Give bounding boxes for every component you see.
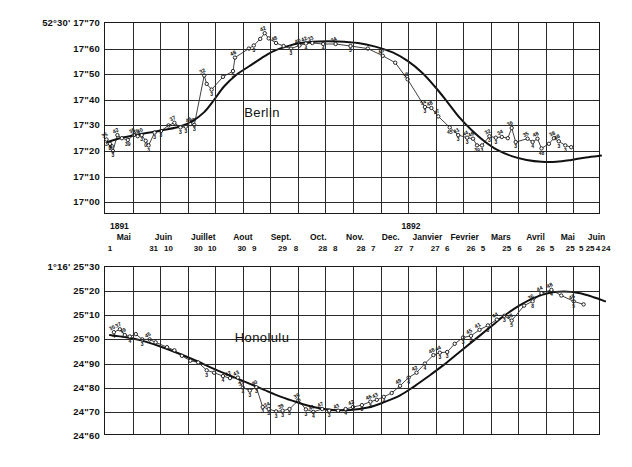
observation-point xyxy=(453,342,456,345)
observation-point xyxy=(375,398,378,401)
mean-curve xyxy=(110,292,605,411)
observation-point xyxy=(506,137,509,140)
observation-count: 8 xyxy=(531,303,534,309)
observation-point xyxy=(321,407,324,410)
observation-point xyxy=(536,137,539,140)
observation-point xyxy=(311,41,314,44)
observation-point xyxy=(398,384,401,387)
observation-point xyxy=(259,37,262,40)
x-axis-month-label: Aout xyxy=(233,232,252,242)
observation-count: 3 xyxy=(466,139,469,145)
figure-root: 52°30' 17"7017"6017"5017"4017"3017"2017"… xyxy=(0,0,632,467)
x-axis-month-label: Sept. xyxy=(271,232,292,242)
observation-point xyxy=(123,333,126,336)
x-axis-year-label: 1892 xyxy=(402,221,421,231)
gridline-vertical xyxy=(215,267,216,434)
y-axis-tick-label: 17"10 xyxy=(73,170,100,181)
x-axis-day-label: 25 xyxy=(586,244,595,253)
y-axis-tick-label: 17"20 xyxy=(73,145,100,156)
y-axis-tick-label: 17"50 xyxy=(73,68,100,79)
observation-point xyxy=(510,126,513,129)
x-axis-day-label: 6 xyxy=(517,244,521,253)
x-axis-month-label: Juin xyxy=(155,232,172,242)
x-axis-month-label: Dec. xyxy=(382,232,400,242)
observation-point xyxy=(236,376,239,379)
gridline-vertical xyxy=(133,23,134,213)
observation-count: 4 xyxy=(550,291,553,297)
x-axis-month-label: Fevrier xyxy=(450,232,478,242)
observation-point xyxy=(282,44,285,47)
gridline-vertical xyxy=(573,267,574,434)
y-axis-tick-label: 1°16' 25"30 xyxy=(48,261,100,272)
gridline-vertical xyxy=(133,267,134,434)
gridline-vertical xyxy=(325,267,326,434)
y-axis-tick-label: 17"40 xyxy=(73,93,100,104)
observation-point xyxy=(495,318,498,321)
observation-point xyxy=(500,135,503,138)
y-axis-tick-label: 17"30 xyxy=(73,119,100,130)
observation-point xyxy=(173,349,176,352)
gridline-vertical xyxy=(546,23,547,213)
x-axis-day-label: 4 xyxy=(596,244,600,253)
gridline-vertical xyxy=(491,23,492,213)
x-axis-day-label: 5 xyxy=(481,244,485,253)
station-label-berlin: Berlin xyxy=(244,105,280,120)
x-axis-day-label: 25 xyxy=(502,244,511,253)
x-axis-day-label: 8 xyxy=(294,244,298,253)
gridline-vertical xyxy=(353,23,354,213)
observation-point xyxy=(228,376,231,379)
observation-point xyxy=(205,82,208,85)
x-axis-day-label: 10 xyxy=(208,244,217,253)
y-axis-tick-label: 17"60 xyxy=(73,42,100,53)
y-axis-tick-label: 17"00 xyxy=(73,196,100,207)
gridline-horizontal xyxy=(105,177,599,178)
x-axis-day-label: 28 xyxy=(356,244,365,253)
observation-point xyxy=(233,56,236,59)
gridline-vertical xyxy=(408,23,409,213)
gridline-horizontal xyxy=(105,291,599,292)
y-axis-tick-label: 25"10 xyxy=(73,309,100,320)
observation-point xyxy=(120,137,123,140)
station-label-honolulu: Honolulu xyxy=(235,330,290,345)
gridline-horizontal xyxy=(105,315,599,316)
observation-count: 3 xyxy=(503,317,506,323)
plot-area-berlin: 3533403423938454030333373346403323548342… xyxy=(104,22,600,214)
observation-point xyxy=(415,371,418,374)
observation-point xyxy=(478,328,481,331)
x-axis-month-label: Mai xyxy=(117,232,131,242)
observation-count: 3 xyxy=(446,353,449,359)
observation-point xyxy=(430,106,433,109)
y-axis-tick-label: 24"90 xyxy=(73,357,100,368)
observation-point xyxy=(154,341,157,344)
observation-count: 3 xyxy=(514,143,517,149)
observation-point xyxy=(134,332,137,335)
gridline-vertical xyxy=(243,267,244,434)
gridline-horizontal xyxy=(105,364,599,365)
y-axis-tick-label: 24"70 xyxy=(73,405,100,416)
plot-area-honolulu: 3543739434534424337434033343339333934144… xyxy=(104,266,600,435)
x-axis-day-label: 31 xyxy=(149,244,158,253)
observation-point xyxy=(522,304,525,307)
observation-count: 4 xyxy=(382,398,385,404)
gridline-horizontal xyxy=(105,388,599,389)
x-axis-day-label: 9 xyxy=(252,244,256,253)
x-axis-day-label: 27 xyxy=(431,244,440,253)
gridline-vertical xyxy=(546,267,547,434)
observation-count: 3 xyxy=(494,139,497,145)
gridline-vertical xyxy=(436,267,437,434)
gridline-vertical xyxy=(408,267,409,434)
observation-point xyxy=(334,42,337,45)
observation-count: 3 xyxy=(205,372,208,378)
observation-point xyxy=(116,133,119,136)
gridline-horizontal xyxy=(105,412,599,413)
x-axis-month-label: Juillet xyxy=(191,232,216,242)
gridline-vertical xyxy=(491,267,492,434)
observation-point xyxy=(560,294,563,297)
observation-count: 3 xyxy=(179,129,182,135)
gridline-vertical xyxy=(436,23,437,213)
observation-point xyxy=(173,121,176,124)
observation-count: 3 xyxy=(184,128,187,134)
y-axis-labels-berlin: 52°30' 17"7017"6017"5017"4017"3017"2017"… xyxy=(4,22,100,214)
observation-point xyxy=(263,32,266,35)
observation-point xyxy=(390,391,393,394)
